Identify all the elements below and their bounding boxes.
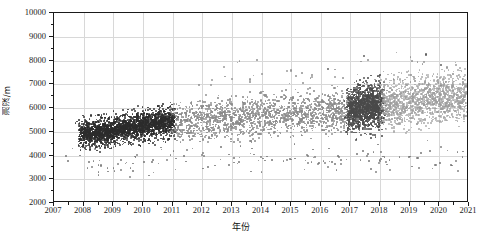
y-axis-minor-tick bbox=[51, 190, 54, 191]
y-axis-minor-tick bbox=[51, 166, 54, 167]
y-axis-minor-tick bbox=[51, 71, 54, 72]
y-axis-tick bbox=[49, 12, 53, 13]
y-axis-tick bbox=[49, 36, 53, 37]
x-axis-title: 年份 bbox=[0, 220, 482, 233]
y-axis-tick-label: 8000 bbox=[6, 55, 46, 65]
y-axis-tick bbox=[49, 202, 53, 203]
y-axis-tick-label: 6000 bbox=[6, 102, 46, 112]
y-axis-tick bbox=[49, 83, 53, 84]
y-axis-tick-label: 7000 bbox=[6, 78, 46, 88]
y-axis-tick-label: 2000 bbox=[6, 197, 46, 207]
y-axis-tick bbox=[49, 178, 53, 179]
y-axis-minor-tick bbox=[51, 95, 54, 96]
y-axis-tick bbox=[49, 155, 53, 156]
y-axis-minor-tick bbox=[51, 48, 54, 49]
scatter-chart-figure: 测深/m 年份 20072008200920102011201220132014… bbox=[0, 0, 482, 242]
y-axis-tick-label: 4000 bbox=[6, 150, 46, 160]
y-axis-tick-label: 3000 bbox=[6, 173, 46, 183]
y-axis-minor-tick bbox=[51, 24, 54, 25]
y-axis-tick-label: 10000 bbox=[6, 7, 46, 17]
y-axis-tick-label: 9000 bbox=[6, 31, 46, 41]
plot-area bbox=[53, 12, 468, 202]
y-axis-tick bbox=[49, 60, 53, 61]
y-axis-tick bbox=[49, 107, 53, 108]
y-axis-tick-label: 5000 bbox=[6, 126, 46, 136]
scatter-points-layer bbox=[54, 13, 467, 201]
y-axis-minor-tick bbox=[51, 143, 54, 144]
y-axis-tick bbox=[49, 131, 53, 132]
x-axis-tick-label: 2021 bbox=[448, 205, 482, 215]
y-axis-minor-tick bbox=[51, 119, 54, 120]
